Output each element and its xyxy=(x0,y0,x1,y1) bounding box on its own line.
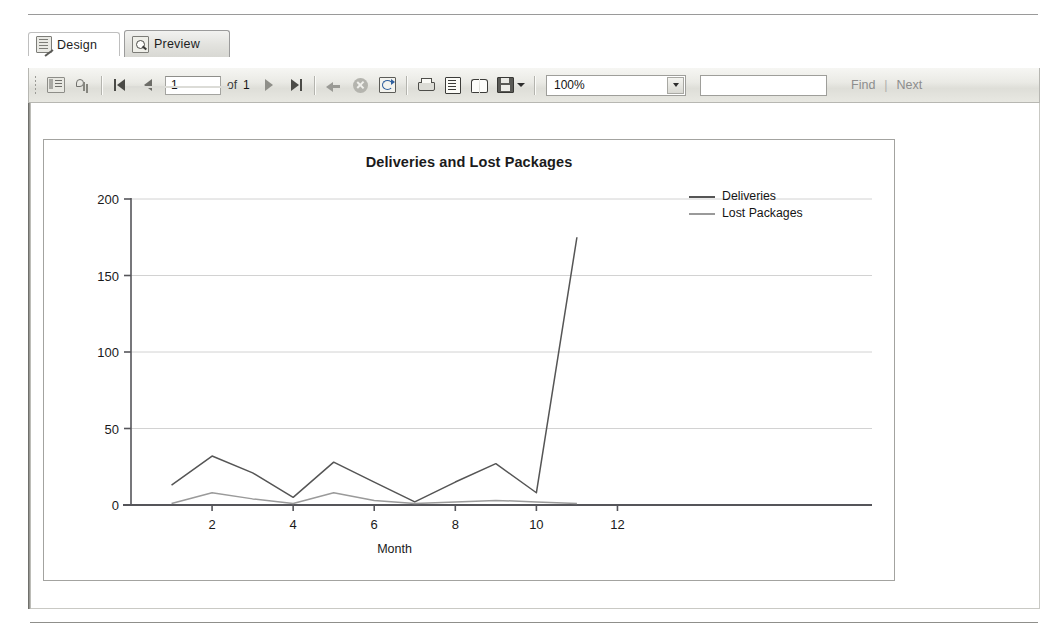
document-map-button[interactable] xyxy=(43,74,68,97)
page-layout-icon xyxy=(445,77,461,94)
back-arrow-icon xyxy=(326,79,341,91)
zoom-select[interactable]: 100% xyxy=(546,75,686,96)
first-page-icon xyxy=(114,79,127,91)
chevron-down-icon[interactable] xyxy=(667,77,684,94)
find-next-divider: | xyxy=(884,78,887,92)
view-tab-strip: Design Preview xyxy=(28,30,1040,56)
chart-x-axis-title: Month xyxy=(377,542,412,556)
next-page-button[interactable] xyxy=(256,74,281,97)
page-of-label: of xyxy=(227,78,237,92)
chart-gridlines xyxy=(131,199,872,429)
parameters-icon xyxy=(75,78,90,93)
refresh-icon xyxy=(379,77,396,93)
chart-frame: Deliveries and Lost Packages 05010015020… xyxy=(43,139,895,581)
toolbar-separator-3 xyxy=(406,76,407,95)
stop-button[interactable] xyxy=(348,74,373,97)
y-tick-100: 100 xyxy=(97,345,119,360)
x-tick-10: 10 xyxy=(529,517,543,532)
tab-design[interactable]: Design xyxy=(28,32,120,56)
toolbar-separator-4 xyxy=(534,76,535,95)
book-icon xyxy=(471,79,488,92)
window-bottom-divider xyxy=(30,622,1038,623)
find-button[interactable]: Find xyxy=(851,78,875,92)
first-page-button[interactable] xyxy=(108,74,133,97)
series-line-deliveries xyxy=(172,237,577,502)
zoom-value-label: 100% xyxy=(554,78,585,92)
x-tick-8: 8 xyxy=(452,517,459,532)
x-tick-2: 2 xyxy=(208,517,215,532)
document-outline-icon xyxy=(47,77,65,93)
tab-preview[interactable]: Preview xyxy=(124,30,230,57)
legend-item-deliveries: Deliveries xyxy=(689,188,803,205)
report-page-left-shadow xyxy=(28,103,31,609)
print-layout-button[interactable] xyxy=(467,74,492,97)
chart-x-tick-labels: 24681012 xyxy=(208,517,624,532)
x-tick-12: 12 xyxy=(610,517,624,532)
report-parameters-button[interactable] xyxy=(70,74,95,97)
x-tick-6: 6 xyxy=(371,517,378,532)
previous-page-button[interactable] xyxy=(135,74,160,97)
tab-preview-label: Preview xyxy=(154,37,200,51)
legend-label-deliveries: Deliveries xyxy=(722,188,776,205)
export-button[interactable] xyxy=(494,74,528,97)
stop-icon xyxy=(353,78,368,93)
legend-item-lost-packages: Lost Packages xyxy=(689,205,803,222)
export-dropdown-caret-icon[interactable] xyxy=(517,83,525,87)
print-button[interactable] xyxy=(413,74,438,97)
tab-design-label: Design xyxy=(57,38,97,52)
toolbar-grip-handle[interactable] xyxy=(34,75,38,95)
find-input[interactable] xyxy=(700,75,827,96)
active-tab-underline-cover xyxy=(125,86,229,88)
chart-legend: Deliveries Lost Packages xyxy=(689,188,803,222)
y-tick-200: 200 xyxy=(97,192,119,207)
refresh-button[interactable] xyxy=(375,74,400,97)
chart-series-lines xyxy=(172,237,577,503)
last-page-icon xyxy=(289,79,302,91)
y-tick-150: 150 xyxy=(97,269,119,284)
save-disk-icon xyxy=(497,77,514,93)
series-line-lost-packages xyxy=(172,493,577,504)
previous-page-icon xyxy=(144,79,152,91)
y-tick-50: 50 xyxy=(105,422,119,437)
page-total-label: 1 xyxy=(243,78,251,92)
legend-label-lost-packages: Lost Packages xyxy=(722,205,803,222)
find-next-button[interactable]: Next xyxy=(897,78,923,92)
toolbar-separator-2 xyxy=(314,76,315,95)
x-tick-4: 4 xyxy=(290,517,297,532)
next-page-icon xyxy=(265,79,273,91)
last-page-button[interactable] xyxy=(283,74,308,97)
page-number-input[interactable]: 1 xyxy=(165,76,221,95)
legend-swatch-deliveries xyxy=(689,196,715,198)
preview-magnifier-icon xyxy=(132,36,149,53)
toolbar-separator-1 xyxy=(101,76,102,95)
back-button[interactable] xyxy=(321,74,346,97)
print-icon xyxy=(417,78,434,92)
y-tick-0: 0 xyxy=(112,498,119,513)
design-document-icon xyxy=(36,36,52,53)
chart-y-tick-labels: 050100150200 xyxy=(97,192,119,513)
page-setup-button[interactable] xyxy=(440,74,465,97)
legend-swatch-lost-packages xyxy=(689,213,715,215)
window-top-divider xyxy=(28,14,1038,15)
